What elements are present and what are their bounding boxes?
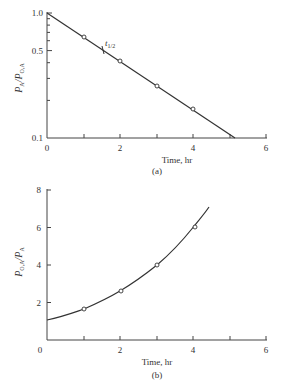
- x-tick-label: 2: [118, 143, 123, 153]
- data-point: [82, 35, 86, 39]
- y-tick-label: 1.0: [32, 8, 44, 18]
- fit-line-a: [47, 13, 235, 138]
- x-tick-label: 4: [191, 345, 196, 355]
- data-point: [191, 107, 195, 111]
- y-tick-label: 8: [37, 185, 42, 195]
- x-tick-label: 0: [38, 345, 43, 355]
- y-ticks-a: [47, 13, 52, 100]
- x-tick-label: 0: [45, 143, 50, 153]
- y-axis-title-a: PA/PO,A: [13, 63, 25, 94]
- x-tick-label: 6: [264, 345, 269, 355]
- x-axis-title-a: Time, hr: [162, 155, 193, 165]
- data-point: [118, 59, 122, 63]
- data-point: [155, 84, 159, 88]
- x-tick-label: 4: [191, 143, 196, 153]
- panel-a: 1.0 0.5 0.1 0 2 4 6 Time, hr (a) PA/PO,A…: [13, 8, 269, 176]
- x-ticks-a: [84, 134, 266, 138]
- data-points-b: [82, 225, 197, 311]
- y-tick-label: 0.5: [32, 46, 44, 56]
- x-tick-label: 2: [118, 345, 123, 355]
- panel-label-a: (a): [152, 166, 162, 176]
- y-tick-label: 2: [37, 298, 42, 308]
- x-ticks-b: [84, 336, 266, 340]
- figure: 1.0 0.5 0.1 0 2 4 6 Time, hr (a) PA/PO,A…: [0, 0, 283, 383]
- data-point: [155, 263, 159, 267]
- data-point: [193, 225, 197, 229]
- panel-b: 8 6 4 2 0 2 4 6 Time, hr (b) PO,A/PA: [13, 185, 269, 380]
- y-tick-label: 6: [37, 223, 42, 233]
- half-life-annotation: t1/2: [105, 38, 115, 49]
- y-ticks-b: [47, 190, 51, 303]
- y-axis-title-b: PO,A/PA: [13, 247, 25, 278]
- y-tick-label: 4: [37, 260, 42, 270]
- panel-label-b: (b): [152, 370, 163, 380]
- fit-curve-b: [47, 207, 209, 320]
- x-tick-label: 6: [264, 143, 269, 153]
- data-point: [119, 289, 123, 293]
- y-tick-label: 0.1: [32, 133, 43, 143]
- x-axis-title-b: Time, hr: [142, 357, 173, 367]
- data-point: [82, 307, 86, 311]
